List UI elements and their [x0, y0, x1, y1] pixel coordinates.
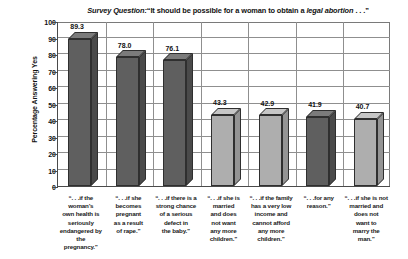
category-label-line: any more [202, 227, 246, 235]
category-label-line: children.” [202, 235, 246, 243]
bar-3d-body [306, 117, 329, 186]
category-label-line: woman’s [59, 202, 103, 210]
plot-inner: 89.378.076.143.342.941.940.7 [58, 22, 390, 186]
x-axis-category-label: “. . .if thewoman’sown health isseriousl… [59, 194, 103, 251]
bar-front-face [259, 115, 282, 186]
bar [163, 60, 186, 186]
bar [211, 115, 234, 186]
category-label-line: and does [202, 210, 246, 218]
bar [306, 117, 329, 186]
category-label-line: reason.” [297, 202, 341, 210]
category-label-line: “. . .if she is [202, 194, 246, 202]
bar-chart: Survey Question:“It should be possible f… [0, 0, 408, 259]
bar-3d-body [163, 60, 186, 186]
gridline-vertical [343, 22, 344, 186]
bar-front-face [116, 57, 139, 186]
gridline-horizontal [58, 37, 390, 38]
category-label-line: becomes [107, 202, 151, 210]
bar [354, 119, 377, 186]
category-label-line: pregnant [107, 210, 151, 218]
plot-top-border [58, 22, 390, 23]
category-label-line: does not [344, 210, 388, 218]
x-axis-category-label: “. . .if she ismarriedand doesnot wantan… [202, 194, 246, 243]
x-axis-category-label: “. . .for anyreason.” [297, 194, 341, 210]
bar [68, 39, 91, 186]
category-label-line: not want [202, 219, 246, 227]
bar-front-face [354, 119, 377, 186]
bar [116, 57, 139, 186]
bar-front-face [306, 117, 329, 186]
bar-side-face [282, 108, 289, 186]
category-label-line: has a very low [249, 202, 293, 210]
bar-value-label: 41.9 [308, 101, 322, 108]
bar-side-face [186, 53, 193, 186]
category-label-line: “. . .if she [107, 194, 151, 202]
gridline-vertical [248, 22, 249, 186]
category-label-line: “. . .if the [59, 194, 103, 202]
bar-3d-body [68, 39, 91, 186]
category-label-line: cannot afford [249, 219, 293, 227]
category-label-line: strong chance [154, 202, 198, 210]
category-label-line: endangered by [59, 227, 103, 235]
plot-right-border [389, 22, 390, 186]
gridline-horizontal [58, 86, 390, 87]
chart-title-quote-close: . . .” [353, 6, 368, 15]
bar-value-label: 89.3 [70, 23, 84, 30]
category-label-line: marry the man.” [344, 227, 388, 243]
bar-value-label: 78.0 [118, 42, 132, 49]
category-label-line: married [202, 202, 246, 210]
y-axis-tick-mark [52, 187, 58, 188]
category-label-line: defect in [154, 219, 198, 227]
category-label-line: “. . .if there is a [154, 194, 198, 202]
plot-area: 89.378.076.143.342.941.940.7 [57, 22, 390, 187]
bar-front-face [68, 39, 91, 186]
category-label-line: income and [249, 210, 293, 218]
bar-front-face [211, 115, 234, 186]
gridline-horizontal [58, 53, 390, 54]
x-axis-category-label: “. . .if shebecomespregnantas a resultof… [107, 194, 151, 235]
category-label-line: the pregnancy.” [59, 235, 103, 251]
bar-side-face [329, 110, 336, 186]
category-label-line: any more [249, 227, 293, 235]
x-axis-category-label: “. . .if there is astrong chanceof a ser… [154, 194, 198, 235]
gridline-horizontal [58, 70, 390, 71]
chart-title-prefix: Survey Question: [87, 6, 147, 15]
category-label-line: “. . .if the family [249, 194, 293, 202]
chart-title-emphasis: legal abortion [306, 6, 353, 15]
category-label-line: married and [344, 202, 388, 210]
bar-value-label: 76.1 [165, 45, 179, 52]
bar-side-face [377, 112, 384, 186]
category-label-line: children.” [249, 235, 293, 243]
gridline-vertical [296, 22, 297, 186]
gridline-vertical [106, 22, 107, 186]
bar-3d-body [259, 115, 282, 186]
category-label-line: of a serious [154, 210, 198, 218]
bar-side-face [91, 32, 98, 186]
category-label-line: want to [344, 219, 388, 227]
category-label-line: “. . .if she is not [344, 194, 388, 202]
gridline-vertical [153, 22, 154, 186]
bar-front-face [163, 60, 186, 186]
bar-value-label: 42.9 [261, 100, 275, 107]
bar-side-face [234, 108, 241, 186]
bar-side-face [139, 50, 146, 186]
category-label-line: of rape.” [107, 227, 151, 235]
bar-3d-body [116, 57, 139, 186]
bar-3d-body [354, 119, 377, 186]
chart-title-quote-open: “It should be possible for a woman to ob… [147, 6, 307, 15]
bar-3d-body [211, 115, 234, 186]
category-label-line: seriously [59, 219, 103, 227]
bar [259, 115, 282, 186]
category-label-line: the baby.” [154, 227, 198, 235]
x-axis-category-label: “. . .if she is notmarried anddoes notwa… [344, 194, 388, 243]
gridline-vertical [201, 22, 202, 186]
chart-title: Survey Question:“It should be possible f… [58, 6, 398, 15]
category-label-line: as a result [107, 219, 151, 227]
x-axis-category-label: “. . .if the familyhas a very lowincome … [249, 194, 293, 243]
category-label-line: own health is [59, 210, 103, 218]
bar-value-label: 40.7 [356, 103, 370, 110]
bar-value-label: 43.3 [213, 99, 227, 106]
category-label-line: “. . .for any [297, 194, 341, 202]
